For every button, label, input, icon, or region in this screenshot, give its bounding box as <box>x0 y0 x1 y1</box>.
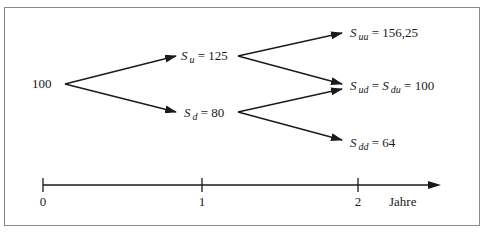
edge-u-uu <box>238 33 342 56</box>
axis-arrow-icon <box>428 181 441 189</box>
edge-d-ud <box>238 89 342 112</box>
node-root: 100 <box>32 77 52 90</box>
tick-label-2: 2 <box>355 195 362 208</box>
node-u: Su = 125 <box>181 49 228 62</box>
tick-label-0: 0 <box>40 195 47 208</box>
axis-label: Jahre <box>389 195 416 208</box>
node-d: Sd = 80 <box>184 106 224 119</box>
time-axis <box>43 178 441 192</box>
node-uu: Suu = 156,25 <box>350 26 418 39</box>
edge-root-d <box>65 84 176 112</box>
tick-label-1: 1 <box>199 195 206 208</box>
edge-d-dd <box>238 112 342 140</box>
node-ud: Sud = Sdu = 100 <box>350 79 434 92</box>
node-dd: Sdd = 64 <box>350 136 395 149</box>
edge-root-u <box>65 56 176 84</box>
edge-u-ud <box>238 56 342 84</box>
